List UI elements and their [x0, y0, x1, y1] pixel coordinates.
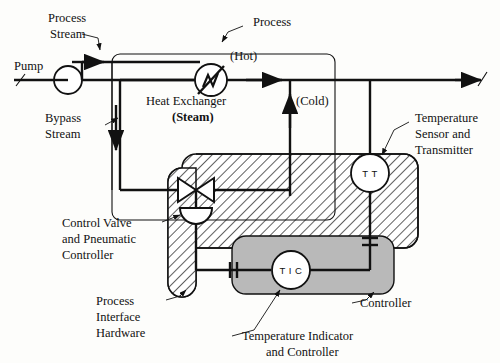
label-temp-sensor-line1: Temperature: [415, 111, 478, 125]
tt-tag-label: T T: [362, 168, 377, 179]
label-bypass-stream-line1: Bypass: [45, 111, 81, 125]
label-heat-exchanger-steam: (Steam): [172, 110, 214, 124]
label-hot: (Hot): [230, 49, 257, 63]
label-process-interface-line1: Process: [96, 294, 134, 308]
label-process: Process: [253, 15, 291, 29]
process-leader: [222, 26, 243, 42]
label-heat-exchanger: Heat Exchanger: [146, 94, 227, 108]
label-control-valve-line1: Control Valve: [62, 216, 132, 230]
label-temp-sensor-line2: Sensor and: [415, 127, 471, 141]
label-temp-indicator-line2: and Controller: [266, 345, 339, 359]
label-bypass-stream-line2: Stream: [45, 127, 81, 141]
label-process-stream-line2: Stream: [50, 27, 86, 41]
label-process-interface-line2: Interface: [96, 310, 141, 324]
process-diagram: T I C T T Process Stream Pump Bypass Str…: [0, 0, 500, 363]
diagram-canvas: T I C T T Process Stream Pump Bypass Str…: [0, 0, 500, 363]
label-process-stream-line1: Process: [48, 11, 86, 25]
label-temp-indicator-line1: Temperature Indicator: [242, 329, 354, 343]
label-process-interface-line3: Hardware: [96, 326, 146, 340]
temperature-sensor-leader: [382, 122, 409, 155]
label-pump: Pump: [14, 59, 43, 73]
label-temp-sensor-line3: Transmitter: [415, 143, 474, 157]
label-cold: (Cold): [296, 94, 329, 108]
label-control-valve-line3: Controller: [62, 248, 114, 262]
label-controller: Controller: [360, 296, 412, 310]
label-control-valve-line2: and Pneumatic: [62, 232, 136, 246]
tic-tag-label: T I C: [280, 265, 303, 276]
